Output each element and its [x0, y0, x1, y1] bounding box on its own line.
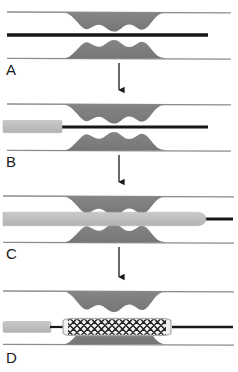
panel-d-bottom-vessel-wall	[3, 344, 234, 345]
panel-d	[3, 291, 234, 345]
panel-d-top-plaque	[63, 292, 170, 313]
panel-c-inflated-balloon	[3, 212, 206, 226]
panel-b-top-plaque	[63, 105, 170, 124]
panel-c	[3, 196, 234, 243]
panel-a-top-plaque	[63, 13, 170, 32]
panel-label-c: C	[6, 246, 17, 261]
panel-c-bottom-plaque	[63, 224, 170, 243]
panel-d-stent-mesh	[68, 319, 166, 335]
panel-a-bottom-plaque	[63, 40, 170, 59]
panel-label-d: D	[6, 350, 17, 365]
panel-b	[3, 104, 231, 151]
figure-canvas	[0, 0, 238, 372]
panel-d-catheter-shaft	[3, 322, 51, 333]
panel-label-a: A	[6, 62, 16, 77]
panel-label-b: B	[6, 154, 16, 169]
panel-a	[7, 12, 231, 59]
stent-placement-figure: A B C D	[0, 0, 238, 372]
panel-b-balloon-catheter	[3, 121, 62, 133]
panel-b-bottom-plaque	[63, 132, 170, 151]
